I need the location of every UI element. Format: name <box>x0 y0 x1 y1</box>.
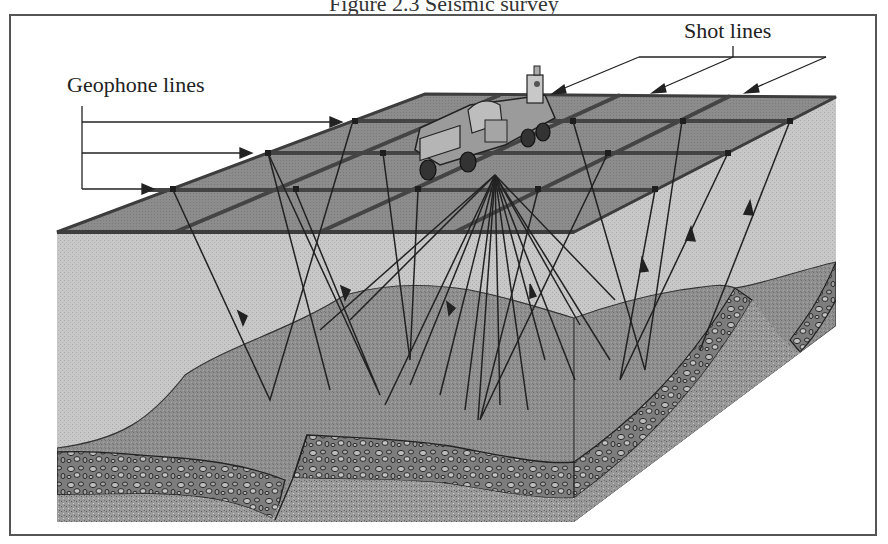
arrow-left-down-icon <box>745 84 759 93</box>
shot-lines-label: Shot lines <box>684 18 771 44</box>
arrow-right-icon <box>142 184 154 194</box>
arrow-right-icon <box>240 148 252 158</box>
shot-lines-callout <box>552 46 826 94</box>
arrow-left-down-icon <box>552 85 566 94</box>
geophone-lines-label: Geophone lines <box>67 72 204 98</box>
arrow-left-down-icon <box>652 84 666 93</box>
